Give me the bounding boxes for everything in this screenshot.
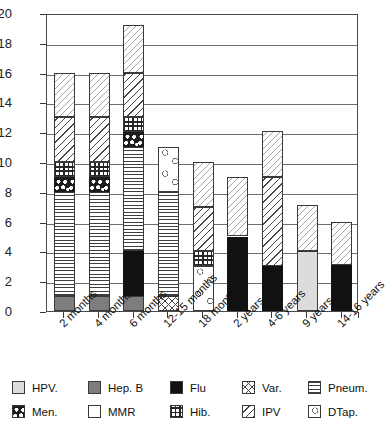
bar-9-years	[297, 13, 318, 311]
segment-ipv	[89, 117, 110, 162]
segment-dtap	[297, 205, 318, 251]
segment-men	[89, 177, 110, 192]
legend-item-hepb[interactable]: Hep. B	[88, 381, 170, 394]
legend-item-hib[interactable]: Hib.	[170, 405, 242, 418]
legend-item-pneum[interactable]: Pneum.	[308, 381, 368, 394]
bar-stack	[227, 13, 248, 311]
segment-ipv	[262, 177, 283, 266]
legend-label-men: Men.	[32, 406, 58, 418]
plot-area	[46, 14, 358, 312]
legend-item-flu[interactable]: Flu	[170, 381, 242, 394]
segment-pneum	[123, 147, 144, 251]
y-tick-label-10: 10	[0, 156, 12, 169]
bar-6-months	[123, 13, 144, 311]
bar-2-months	[54, 13, 75, 311]
bar-2-years	[227, 13, 248, 311]
segment-dtap	[123, 25, 144, 73]
segment-flu	[262, 266, 283, 311]
y-tick-label-4: 4	[0, 245, 12, 258]
y-tick-label-0: 0	[0, 305, 12, 318]
segment-dtapc	[158, 147, 179, 192]
segment-hib	[54, 162, 75, 177]
legend-swatch-flu-icon	[170, 381, 183, 394]
segment-hib	[193, 251, 214, 266]
legend-label-hib: Hib.	[190, 406, 210, 418]
segment-ipv	[54, 117, 75, 162]
segment-ipv	[123, 73, 144, 118]
legend-label-ipv: IPV	[262, 406, 281, 418]
legend-item-dtap[interactable]: DTap.	[308, 405, 368, 418]
bar-stack	[297, 13, 318, 311]
legend-item-var[interactable]: Var.	[242, 381, 308, 394]
legend-swatch-hpv-icon	[12, 381, 25, 394]
legend-swatch-var-icon	[242, 381, 255, 394]
y-tick-label-20: 20	[0, 7, 12, 20]
legend-item-mmr[interactable]: MMR	[88, 405, 170, 418]
legend-swatch-hib-icon	[170, 405, 183, 418]
segment-ipv	[193, 207, 214, 252]
legend-item-hpv[interactable]: HPV.	[12, 381, 88, 394]
bar-stack	[54, 13, 75, 311]
legend-label-mmr: MMR	[108, 406, 135, 418]
segment-dtap	[54, 73, 75, 118]
segment-dtap	[89, 73, 110, 118]
legend-swatch-dtap-icon	[308, 405, 321, 418]
segment-dtap	[331, 222, 352, 265]
y-tick-label-6: 6	[0, 216, 12, 229]
segment-hib	[89, 162, 110, 177]
bar-stack	[158, 13, 179, 311]
legend-item-men[interactable]: Men.	[12, 405, 88, 418]
legend-label-pneum: Pneum.	[328, 382, 368, 394]
y-tick-label-8: 8	[0, 186, 12, 199]
legend-swatch-ipv-icon	[242, 405, 255, 418]
y-tick-label-18: 18	[0, 37, 12, 50]
chart-legend: HPV.Hep. BFluVar.Pneum.Men.MMRHib.IPVDTa…	[12, 381, 368, 429]
segment-dtap	[262, 131, 283, 177]
legend-row: Men.MMRHib.IPVDTap.	[12, 405, 368, 418]
bar-stack	[123, 13, 144, 311]
bar-stack	[193, 13, 214, 311]
bar-4-6-years	[262, 13, 283, 311]
segment-pneum	[54, 192, 75, 296]
legend-label-flu: Flu	[190, 382, 206, 394]
y-tick-label-12: 12	[0, 126, 12, 139]
bar-4-months	[89, 13, 110, 311]
legend-swatch-pneum-icon	[308, 381, 321, 394]
bar-stack	[331, 13, 352, 311]
legend-label-hepb: Hep. B	[108, 382, 143, 394]
legend-label-var: Var.	[262, 382, 282, 394]
legend-swatch-hepb-icon	[88, 381, 101, 394]
legend-swatch-mmr-icon	[88, 405, 101, 418]
segment-pneum	[89, 192, 110, 296]
plot-wrap: 2 months4 months6 months12-15 months18 m…	[46, 14, 358, 312]
legend-item-ipv[interactable]: IPV	[242, 405, 308, 418]
y-tick-mark	[40, 312, 46, 313]
segment-pneum	[158, 192, 179, 296]
legend-label-dtap: DTap.	[328, 406, 358, 418]
segment-men	[123, 132, 144, 147]
segment-dtap	[193, 162, 214, 207]
legend-label-hpv: HPV.	[32, 382, 58, 394]
bar-18-months	[193, 13, 214, 311]
segment-dtap	[227, 177, 248, 237]
legend-swatch-men-icon	[12, 405, 25, 418]
segment-hib	[123, 117, 144, 132]
y-tick-label-16: 16	[0, 67, 12, 80]
segment-flu	[331, 265, 352, 311]
bar-stack	[262, 13, 283, 311]
legend-row: HPV.Hep. BFluVar.Pneum.	[12, 381, 368, 394]
bar-12-15-months	[158, 13, 179, 311]
y-tick-label-2: 2	[0, 275, 12, 288]
bar-stack	[89, 13, 110, 311]
bar-14-16-years	[331, 13, 352, 311]
segment-men	[54, 177, 75, 192]
y-tick-label-14: 14	[0, 96, 12, 109]
